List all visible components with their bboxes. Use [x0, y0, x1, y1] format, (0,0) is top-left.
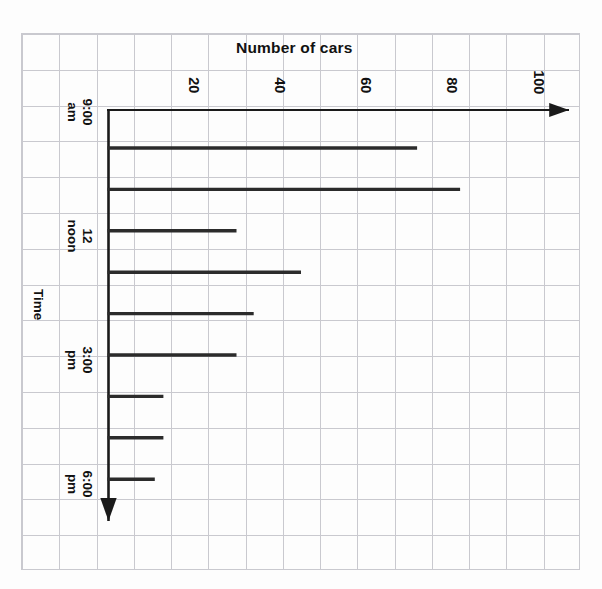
y-tick-3pm-line2: pm	[66, 338, 80, 382]
bar-series	[108, 148, 461, 479]
x-tick-label-60: 60	[359, 77, 374, 93]
y-tick-6pm-line2: pm	[66, 462, 80, 506]
y-tick-9am-line2: am	[66, 90, 80, 134]
chart-canvas: Number of cars 20 40 60 80 100 9:00 am 1…	[0, 0, 602, 589]
y-tick-12noon-line2: noon	[66, 214, 80, 258]
y-tick-9am-line1: 9:00	[81, 90, 95, 134]
x-tick-label-40: 40	[273, 77, 288, 93]
chart-title: Number of cars	[236, 40, 353, 56]
y-tick-6pm-line1: 6:00	[81, 462, 95, 506]
y-tick-label-9am: 9:00 am	[66, 90, 94, 134]
y-tick-3pm-line1: 3:00	[81, 338, 95, 382]
y-tick-label-6pm: 6:00 pm	[66, 462, 94, 506]
x-tick-label-100: 100	[532, 70, 547, 94]
x-tick-label-20: 20	[187, 77, 202, 93]
x-tick-label-80: 80	[445, 77, 460, 93]
y-tick-label-3pm: 3:00 pm	[66, 338, 94, 382]
y-tick-12noon-line1: 12	[81, 214, 95, 258]
y-axis-title: Time	[32, 289, 46, 320]
y-tick-label-12noon: 12 noon	[66, 214, 94, 258]
